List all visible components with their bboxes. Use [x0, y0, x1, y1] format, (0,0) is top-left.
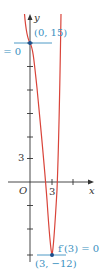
critical-point-top: [28, 41, 32, 45]
x-tick-label-3: 3: [49, 187, 55, 197]
critical-point-bottom: [50, 253, 54, 257]
point-label-bottom: (3, −12): [35, 259, 77, 269]
point-label-top: (0, 15): [34, 28, 67, 38]
function-graph: [0, 0, 101, 272]
x-axis-label: x: [89, 186, 95, 196]
y-tick-label-3: 3: [18, 153, 24, 163]
origin-label: O: [19, 186, 27, 196]
y-axis-arrow-icon: [28, 14, 33, 20]
x-axis-arrow-icon: [88, 180, 94, 185]
y-axis-label: y: [34, 13, 40, 23]
tangent-label-top: f′(0) = 0: [0, 47, 21, 57]
tangent-label-bottom: f′(3) = 0: [58, 244, 99, 254]
